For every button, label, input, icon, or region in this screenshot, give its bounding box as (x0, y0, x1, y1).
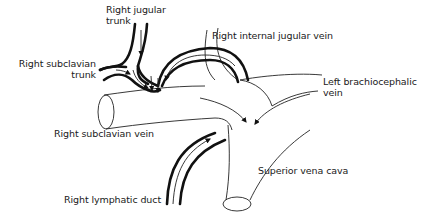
label-right-jugular-trunk: Right jugular trunk (106, 4, 166, 26)
lymphatic-drainage-diagram: Right jugular trunk Right subclavian tru… (0, 0, 429, 216)
flow-arrow-brachiocephalic (255, 94, 310, 124)
label-left-brachiocephalic-vein: Left brachiocephalic vein (323, 76, 417, 98)
left-brachiocephalic-vein-shape (240, 74, 322, 106)
right-lymphatic-duct-shape (167, 133, 225, 204)
label-right-subclavian-trunk: Right subclavian trunk (14, 58, 96, 80)
label-superior-vena-cava: Superior vena cava (258, 165, 348, 176)
label-right-subclavian-vein: Right subclavian vein (54, 128, 154, 139)
right-subclavian-vein-shape (98, 86, 232, 130)
label-right-lymphatic-duct: Right lymphatic duct (64, 194, 161, 205)
right-internal-jugular-arch-shape (158, 48, 248, 92)
label-right-internal-jugular-vein: Right internal jugular vein (212, 30, 333, 41)
